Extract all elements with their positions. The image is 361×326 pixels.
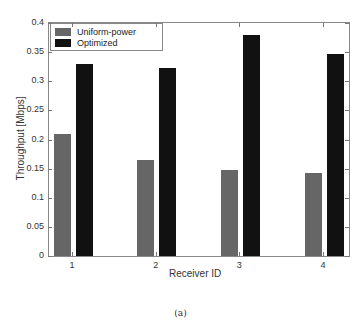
y-tick xyxy=(345,169,349,170)
y-tick-label: 0.35 xyxy=(14,46,44,56)
legend: Uniform-power Optimized xyxy=(50,23,163,51)
plot-area xyxy=(48,22,350,257)
y-tick xyxy=(48,110,52,111)
bar-uniform-power-4 xyxy=(305,173,322,256)
x-tick-top xyxy=(323,23,324,27)
y-tick xyxy=(48,23,52,24)
y-tick xyxy=(345,52,349,53)
figure: Throughput [Mbps] Receiver ID Uniform-po… xyxy=(0,0,361,326)
legend-item-optimized: Optimized xyxy=(55,38,118,48)
bar-optimized-2 xyxy=(159,68,176,256)
bar-optimized-4 xyxy=(327,54,344,256)
y-tick-label: 0.1 xyxy=(14,192,44,202)
y-tick-label: 0.15 xyxy=(14,163,44,173)
y-tick xyxy=(345,23,349,24)
y-tick-label: 0.2 xyxy=(14,134,44,144)
x-tick-label: 1 xyxy=(62,260,82,270)
legend-swatch-uniform-power xyxy=(55,28,71,36)
x-tick xyxy=(72,252,73,256)
bar-uniform-power-3 xyxy=(221,170,238,256)
y-tick xyxy=(345,140,349,141)
y-tick xyxy=(48,227,52,228)
y-tick-label: 0.3 xyxy=(14,75,44,85)
bar-optimized-1 xyxy=(76,64,93,256)
y-tick xyxy=(345,110,349,111)
x-tick-top xyxy=(239,23,240,27)
x-axis-label: Receiver ID xyxy=(169,268,221,279)
y-tick xyxy=(345,256,349,257)
bar-optimized-3 xyxy=(243,35,260,256)
y-tick xyxy=(345,227,349,228)
x-tick xyxy=(323,252,324,256)
bar-uniform-power-1 xyxy=(54,134,71,256)
x-tick-top xyxy=(72,23,73,27)
legend-label: Uniform-power xyxy=(77,27,136,37)
y-tick xyxy=(48,169,52,170)
x-tick-label: 3 xyxy=(229,260,249,270)
bar-uniform-power-2 xyxy=(137,160,154,256)
y-tick-label: 0 xyxy=(14,250,44,260)
y-tick-label: 0.25 xyxy=(14,104,44,114)
y-tick xyxy=(48,81,52,82)
figure-caption: (a) xyxy=(0,308,361,318)
y-tick-label: 0.4 xyxy=(14,17,44,27)
legend-swatch-optimized xyxy=(55,39,71,47)
y-tick xyxy=(48,52,52,53)
y-tick xyxy=(48,140,52,141)
legend-label: Optimized xyxy=(77,38,118,48)
x-tick xyxy=(156,252,157,256)
x-tick-label: 2 xyxy=(146,260,166,270)
x-tick xyxy=(239,252,240,256)
x-tick-top xyxy=(156,23,157,27)
y-tick-label: 0.05 xyxy=(14,221,44,231)
y-tick xyxy=(48,198,52,199)
legend-item-uniform-power: Uniform-power xyxy=(55,27,136,37)
x-tick-label: 4 xyxy=(313,260,333,270)
y-tick xyxy=(345,198,349,199)
y-tick xyxy=(345,81,349,82)
y-tick xyxy=(48,256,52,257)
